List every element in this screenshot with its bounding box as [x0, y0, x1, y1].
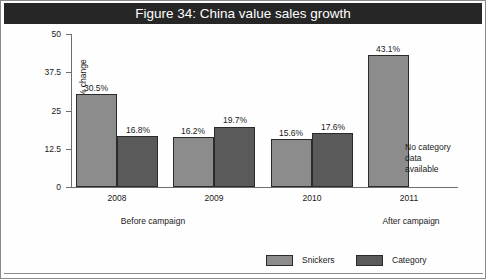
y-tick-label-12-5: 12.5	[21, 144, 61, 154]
no-data-line-1: No category	[405, 142, 467, 153]
bar-label-2009-category: 19.7%	[223, 115, 247, 125]
legend-swatch-category-icon	[356, 255, 383, 266]
x-axis-line	[71, 187, 458, 188]
no-data-line-3: available	[405, 164, 467, 175]
bar-label-2009-snickers: 16.2%	[181, 126, 205, 136]
bar-2011-snickers	[368, 55, 409, 187]
no-data-annotation: No category data available	[405, 142, 467, 175]
x-tick-label-2009: 2009	[205, 193, 224, 203]
plot-area: Value sales % change 30.5% 16.8% 16.2% 1…	[71, 34, 457, 187]
y-tick-label-25: 25	[21, 106, 61, 116]
legend-item-snickers[interactable]: Snickers	[266, 253, 335, 267]
legend-label-category: Category	[392, 255, 427, 265]
bar-2009-snickers	[173, 137, 214, 187]
bar-label-2008-category: 16.8%	[126, 125, 150, 135]
legend: Snickers Category	[1, 253, 486, 269]
bar-2010-snickers	[271, 139, 312, 187]
bar-label-2008-snickers: 30.5%	[84, 83, 108, 93]
no-data-line-2: data	[405, 153, 467, 164]
footer-divider	[4, 273, 483, 274]
bar-label-2010-category: 17.6%	[321, 122, 345, 132]
bar-label-2011-snickers: 43.1%	[376, 44, 400, 54]
phase-label-after: After campaign	[382, 216, 439, 226]
y-tick-label-37-5: 37.5	[21, 67, 61, 77]
legend-swatch-snickers-icon	[266, 255, 293, 266]
x-tick-label-2011: 2011	[400, 193, 418, 203]
phase-label-before: Before campaign	[121, 216, 185, 226]
y-tick-0	[66, 187, 71, 188]
bar-label-2010-snickers: 15.6%	[279, 128, 303, 138]
bar-2008-snickers	[76, 94, 117, 187]
legend-label-snickers: Snickers	[302, 255, 335, 265]
y-tick-label-50: 50	[21, 29, 61, 39]
bar-2009-category	[214, 127, 255, 187]
figure-container: Figure 34: China value sales growth 50 3…	[0, 0, 486, 279]
bar-2010-category	[312, 133, 353, 187]
figure-title: Figure 34: China value sales growth	[4, 3, 482, 24]
y-tick-label-0: 0	[21, 182, 61, 192]
x-tick-label-2008: 2008	[108, 193, 127, 203]
bar-2008-category	[117, 136, 158, 187]
x-tick-label-2010: 2010	[303, 193, 322, 203]
legend-item-category[interactable]: Category	[356, 253, 427, 267]
